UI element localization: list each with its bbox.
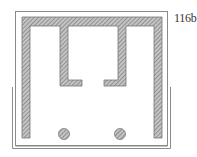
reference-label: 116b [174,11,196,26]
outer-frame [16,12,168,146]
main-hatched-structure [22,17,162,138]
hatched-frame [22,17,162,138]
patent-diagram [0,0,197,157]
left-post [59,129,70,140]
tray [13,87,171,149]
right-post [115,129,126,140]
